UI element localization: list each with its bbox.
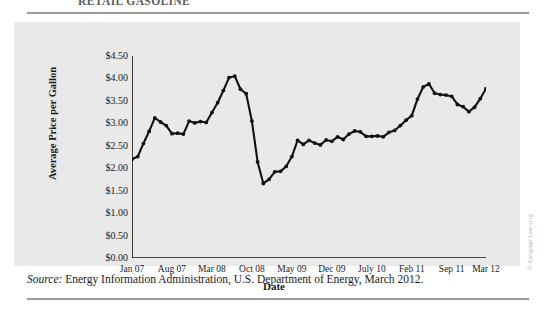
data-point-marker [296, 138, 300, 142]
data-point-marker [393, 129, 397, 133]
data-point-marker [244, 92, 248, 96]
y-axis-tick-label: $3.50 [84, 95, 128, 106]
data-point-marker [410, 114, 414, 118]
y-axis-tick-label: $0.50 [84, 230, 128, 241]
data-point-marker [204, 121, 208, 125]
data-point-marker [427, 82, 431, 86]
data-point-marker [284, 165, 288, 169]
data-point-marker [210, 111, 214, 115]
data-point-marker [164, 124, 168, 128]
source-label: Source: [27, 273, 62, 285]
data-point-marker [478, 97, 482, 101]
y-axis-title: Average Price per Gallon [47, 44, 58, 204]
y-axis-tick-label: $3.00 [84, 117, 128, 128]
data-point-marker [444, 93, 448, 97]
data-point-marker [142, 142, 146, 146]
data-point-marker [376, 134, 380, 138]
data-point-marker [347, 132, 351, 136]
data-point-marker [330, 139, 334, 143]
data-point-marker [261, 182, 265, 186]
figure-container: RETAIL GASOLINE Average Price per Gallon… [0, 0, 556, 317]
data-point-marker [301, 143, 305, 147]
y-axis-tick-label: $1.50 [84, 185, 128, 196]
data-point-marker [433, 91, 437, 95]
data-point-marker [176, 131, 180, 135]
data-point-marker [404, 118, 408, 122]
data-point-marker [267, 178, 271, 182]
data-point-marker [290, 155, 294, 159]
data-point-marker [153, 116, 157, 120]
data-point-marker [216, 101, 220, 105]
data-point-marker [313, 141, 317, 145]
data-point-marker [319, 143, 323, 147]
top-divider-rule [27, 12, 529, 14]
data-point-marker [159, 120, 163, 124]
data-point-marker [199, 120, 203, 124]
y-axis-tick-label: $0.00 [84, 252, 128, 263]
y-axis-tick-label: $4.50 [84, 50, 128, 61]
data-point-marker [450, 95, 454, 99]
data-point-marker [438, 93, 442, 97]
data-point-marker [456, 103, 460, 107]
data-point-marker [221, 89, 225, 93]
data-point-marker [187, 119, 191, 123]
data-point-marker [193, 121, 197, 125]
source-note: Source: Energy Information Administratio… [27, 273, 423, 285]
data-point-marker [398, 124, 402, 128]
data-point-marker [239, 87, 243, 91]
data-point-marker [170, 132, 174, 136]
data-point-marker [307, 138, 311, 142]
data-point-marker [353, 129, 357, 133]
data-point-marker [147, 130, 151, 134]
data-point-marker [364, 134, 368, 138]
price-series-line [132, 76, 486, 183]
data-point-marker [136, 155, 140, 159]
data-point-marker [341, 138, 345, 142]
data-point-marker [387, 130, 391, 134]
data-point-marker [370, 134, 374, 138]
data-point-marker [358, 130, 362, 134]
data-point-marker [336, 135, 340, 139]
running-head-text: RETAIL GASOLINE [78, 0, 298, 7]
data-point-marker [421, 85, 425, 89]
data-point-marker [416, 97, 420, 101]
y-axis-tick-label: $1.00 [84, 207, 128, 218]
data-point-marker [256, 160, 260, 164]
data-point-marker [324, 138, 328, 142]
data-point-marker [250, 119, 254, 123]
data-point-marker [233, 74, 237, 78]
data-point-marker [467, 110, 471, 114]
data-point-marker [461, 105, 465, 109]
copyright-credit: © Cengage Learning [527, 214, 533, 269]
bottom-divider-rule [27, 298, 529, 300]
y-axis-tick-label: $2.00 [84, 162, 128, 173]
data-point-marker [473, 105, 477, 109]
data-point-marker [381, 135, 385, 139]
source-text: Energy Information Administration, U.S. … [62, 273, 423, 285]
data-point-marker [279, 169, 283, 173]
y-axis-tick-labels: $4.50$4.00$3.50$3.00$2.50$2.00$1.50$1.00… [80, 56, 128, 258]
data-point-marker [273, 170, 277, 174]
y-axis-tick-label: $4.00 [84, 72, 128, 83]
data-point-marker [181, 132, 185, 136]
line-chart-svg [132, 56, 486, 258]
x-axis-tick-label: Sep 11 [439, 264, 465, 274]
chart-panel: Average Price per Gallon $4.50$4.00$3.50… [14, 22, 520, 266]
x-axis-tick-label: Mar 12 [472, 264, 500, 274]
y-axis-tick-label: $2.50 [84, 140, 128, 151]
data-point-marker [227, 76, 231, 80]
plot-area [132, 56, 486, 258]
